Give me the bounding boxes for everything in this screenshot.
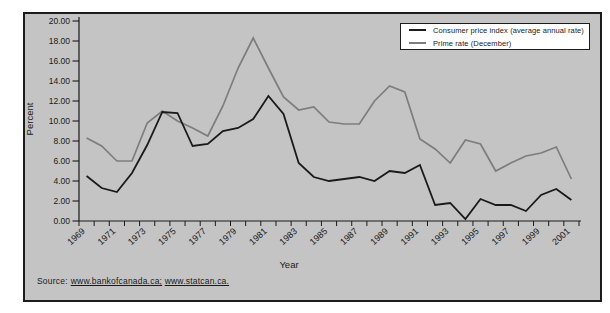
y-tick-labels: 0.002.004.006.008.0010.0012.0014.0016.00… xyxy=(49,16,79,226)
x-tick-label: 2001 xyxy=(550,226,572,247)
x-tick-label: 1995 xyxy=(459,226,481,247)
x-tick-label: 1971 xyxy=(96,226,118,247)
x-tick-label: 1981 xyxy=(247,226,269,247)
source-link-bankofcanada[interactable]: www.bankofcanada.ca; xyxy=(71,276,162,286)
x-tick-label: 1999 xyxy=(520,226,542,247)
legend-label-prime-rate: Prime rate (December) xyxy=(433,39,511,48)
y-axis-title: Percent xyxy=(24,102,35,135)
y-tick-label: 2.00 xyxy=(53,196,70,206)
legend-item-cpi: Consumer price index (average annual rat… xyxy=(409,25,589,36)
x-tick-label: 1993 xyxy=(429,226,451,247)
y-tick-label: 12.00 xyxy=(49,96,71,106)
y-tick-label: 16.00 xyxy=(49,56,71,66)
prime-rate-line-swatch xyxy=(409,42,426,44)
y-tick-label: 10.00 xyxy=(49,116,71,126)
source-note-prefix: Source: xyxy=(37,276,68,286)
legend-item-prime-rate: Prime rate (December) xyxy=(409,38,589,49)
source-link-statcan[interactable]: www.statcan.ca. xyxy=(165,276,229,286)
x-tick-label: 1997 xyxy=(490,226,512,247)
source-note: Source:www.bankofcanada.ca; www.statcan.… xyxy=(37,276,229,286)
x-ticks xyxy=(79,221,579,226)
y-tick-label: 6.00 xyxy=(53,156,70,166)
x-tick-label: 1983 xyxy=(277,226,299,247)
cpi-line-swatch xyxy=(409,29,426,31)
x-tick-label: 1985 xyxy=(308,226,330,247)
y-tick-label: 8.00 xyxy=(53,136,70,146)
x-tick-label: 1977 xyxy=(187,226,209,247)
legend: Consumer price index (average annual rat… xyxy=(400,23,590,50)
x-tick-label: 1973 xyxy=(126,226,148,247)
legend-label-cpi: Consumer price index (average annual rat… xyxy=(433,26,584,35)
x-tick-label: 1987 xyxy=(338,226,360,247)
x-tick-label: 1991 xyxy=(399,226,421,247)
y-tick-label: 18.00 xyxy=(49,36,71,46)
y-tick-label: 4.00 xyxy=(53,176,70,186)
y-tick-label: 20.00 xyxy=(49,16,71,26)
chart-figure: 0.002.004.006.008.0010.0012.0014.0016.00… xyxy=(0,0,610,313)
y-tick-label: 14.00 xyxy=(49,76,71,86)
x-tick-label: 1989 xyxy=(368,226,390,247)
x-tick-label: 1969 xyxy=(65,226,87,247)
x-tick-labels: 1969197119731975197719791981198319851987… xyxy=(65,226,571,247)
x-tick-label: 1975 xyxy=(156,226,178,247)
prime-rate-line xyxy=(87,38,572,179)
y-tick-label: 0.00 xyxy=(53,216,70,226)
x-axis-title: Year xyxy=(279,259,298,270)
x-tick-label: 1979 xyxy=(217,226,239,247)
